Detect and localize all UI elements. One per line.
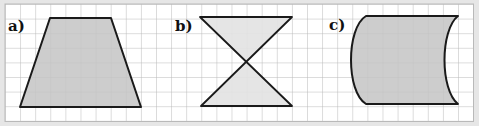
figure-a-label: a) [8,17,25,35]
figure-b-label: b) [175,17,193,35]
grid-diagram: a) b) c) [0,0,479,126]
curved-shape [351,16,458,104]
figure-panel: a) b) c) [0,0,479,126]
figure-c-label: c) [329,16,345,34]
